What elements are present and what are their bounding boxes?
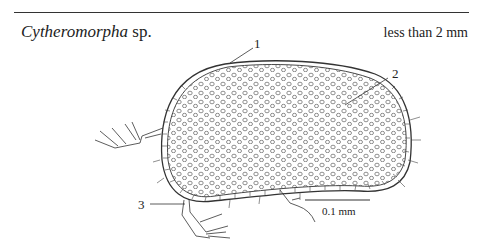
label-2: 2 <box>392 66 399 81</box>
antenna <box>95 122 163 148</box>
walking-leg <box>280 190 315 222</box>
ostracod-illustration: 1 2 3 0.1 mm <box>0 0 483 242</box>
label-3: 3 <box>138 197 145 212</box>
furca <box>182 199 230 238</box>
label-1: 1 <box>254 36 261 51</box>
scale-bar-label: 0.1 mm <box>322 205 356 217</box>
